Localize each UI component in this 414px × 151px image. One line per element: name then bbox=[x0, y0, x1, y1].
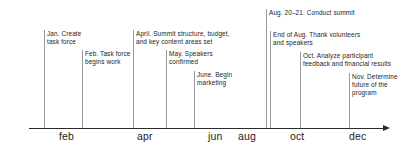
callout-oct-line-1: Oct. Analyze participant bbox=[303, 52, 391, 60]
callout-nov-line-3: program bbox=[352, 89, 398, 97]
leader-line-june bbox=[194, 71, 195, 128]
callout-june-line-1: June. Begin bbox=[197, 71, 232, 79]
callout-nov-line-1: Nov. Determine bbox=[352, 73, 398, 81]
callout-aug-summit-line-1: Aug. 20–21. Conduct summit bbox=[269, 9, 355, 17]
callout-end-aug: End of Aug. Thank volunteers and speaker… bbox=[273, 31, 360, 47]
callout-feb: Feb. Task force begins work bbox=[85, 50, 131, 66]
callout-jan-line-2: task force bbox=[47, 38, 81, 46]
callout-april-line-2: and key content areas set bbox=[136, 38, 230, 46]
leader-line-oct bbox=[300, 52, 301, 128]
callout-june-line-2: marketing bbox=[197, 79, 232, 87]
callout-feb-line-2: begins work bbox=[85, 58, 131, 66]
callout-oct: Oct. Analyze participant feedback and fi… bbox=[303, 52, 391, 68]
callout-may: May. Speakers confirmed bbox=[169, 50, 213, 66]
axis-label-apr: apr bbox=[137, 130, 153, 142]
axis-label-jun: jun bbox=[208, 130, 222, 142]
leader-line-end-aug bbox=[270, 31, 271, 128]
callout-end-aug-line-1: End of Aug. Thank volunteers bbox=[273, 31, 360, 39]
callout-jan: Jan. Create task force bbox=[47, 30, 81, 46]
leader-line-may bbox=[166, 50, 167, 128]
callout-april: April. Summit structure, budget, and key… bbox=[136, 30, 230, 46]
callout-nov: Nov. Determine future of the program bbox=[352, 73, 398, 98]
leader-line-feb bbox=[82, 50, 83, 128]
timeline-axis-arrow bbox=[383, 125, 390, 131]
axis-label-feb: feb bbox=[59, 130, 74, 142]
callout-end-aug-line-2: and speakers bbox=[273, 39, 360, 47]
callout-oct-line-2: feedback and financial results bbox=[303, 60, 391, 68]
callout-jan-line-1: Jan. Create bbox=[47, 30, 81, 38]
callout-june: June. Begin marketing bbox=[197, 71, 232, 87]
leader-line-nov bbox=[349, 73, 350, 128]
callout-april-line-1: April. Summit structure, budget, bbox=[136, 30, 230, 38]
axis-label-oct: oct bbox=[290, 130, 304, 142]
axis-label-dec: dec bbox=[349, 130, 366, 142]
leader-line-jan bbox=[44, 30, 45, 128]
timeline-axis-line bbox=[29, 128, 384, 129]
leader-line-april bbox=[133, 30, 134, 128]
axis-label-aug: aug bbox=[238, 130, 256, 142]
callout-feb-line-1: Feb. Task force bbox=[85, 50, 131, 58]
callout-may-line-2: confirmed bbox=[169, 58, 213, 66]
timeline-figure: Jan. Create task force Feb. Task force b… bbox=[0, 0, 414, 151]
callout-nov-line-2: future of the bbox=[352, 81, 398, 89]
callout-may-line-1: May. Speakers bbox=[169, 50, 213, 58]
callout-aug-summit: Aug. 20–21. Conduct summit bbox=[269, 9, 355, 17]
leader-line-aug-summit bbox=[266, 9, 267, 128]
